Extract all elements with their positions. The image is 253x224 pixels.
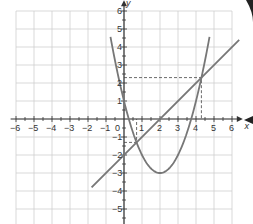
y-tick-label: 2: [117, 78, 122, 88]
x-tick-label: 4: [193, 123, 198, 133]
y-tick-label: −4: [112, 186, 122, 196]
straight-line: [92, 40, 240, 188]
x-tick-label: −3: [64, 123, 74, 133]
x-tick-label: −6: [10, 123, 20, 133]
y-tick-label: −2: [112, 150, 122, 160]
x-tick-label: −1: [100, 123, 110, 133]
y-tick-label: −3: [112, 168, 122, 178]
y-tick-label: 6: [117, 6, 122, 16]
y-tick-label: 3: [117, 60, 122, 70]
y-tick-label: 5: [117, 24, 122, 34]
y-tick-label: 1: [117, 96, 122, 106]
x-tick-label: 5: [211, 123, 216, 133]
y-axis-label: y: [125, 0, 131, 8]
corner-decoration: [246, 0, 253, 22]
x-tick-label: −2: [82, 123, 92, 133]
y-tick-label: −1: [112, 132, 122, 142]
x-tick-label: 1: [139, 123, 144, 133]
graph: −6−5−4−3−2−10123456654321−1−2−3−4−5xy: [0, 0, 253, 224]
x-tick-label: 3: [175, 123, 180, 133]
x-tick-label: −5: [28, 123, 38, 133]
y-tick-label: −5: [112, 204, 122, 214]
x-axis-label: x: [244, 121, 250, 131]
x-tick-label: 2: [157, 123, 162, 133]
y-tick-label: 4: [117, 42, 122, 52]
x-tick-label: −4: [46, 123, 56, 133]
x-tick-label: 6: [229, 123, 234, 133]
dashed-guides: [124, 78, 201, 143]
